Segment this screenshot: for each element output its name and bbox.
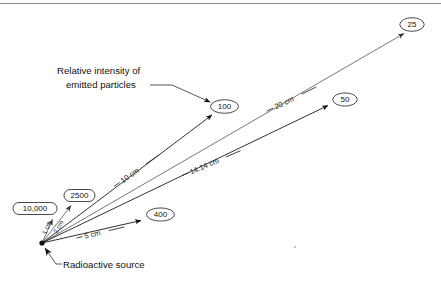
intensity-caption-leader [150,85,210,102]
radioactive-source-dot [39,240,44,245]
intensity-badge-100: 100 [211,100,239,114]
distance-label-1cm: 1 cm [40,220,52,235]
distance-label-5cm: 5 cm [83,228,101,240]
intensity-caption-line1: Relative intensity of [57,65,141,76]
distance-label-10cm-group: 10 cm [111,151,161,190]
source-caption-leader [45,248,62,264]
diagram-canvas: 1 cm 2 cm 5 cm 10 cm 14.14 cm 20 cm [0,0,441,285]
intensity-badge-10000: 10,000 [13,203,57,215]
intensity-caption-line2: emitted particles [66,79,136,90]
distance-label-2cm-group: 2 cm [52,219,65,235]
scan-speck [294,246,296,248]
intensity-badge-2500: 2500 [64,190,95,202]
distance-label-10cm: 10 cm [119,166,141,185]
intensity-badge-10000-label: 10,000 [23,204,48,213]
intensity-badge-50-label: 50 [341,95,350,104]
source-caption-label: Radioactive source [63,259,145,270]
distance-label-2cm: 2 cm [52,219,65,235]
intensity-badge-25: 25 [400,18,424,32]
intensity-badge-25-label: 25 [408,20,417,29]
intensity-badge-100-label: 100 [218,102,232,111]
intensity-badge-2500-label: 2500 [71,191,89,200]
intensity-badge-400: 400 [147,208,175,221]
distance-label-14-14cm: 14.14 cm [188,156,220,176]
distance-label-1cm-group: 1 cm [40,220,52,235]
intensity-badge-50: 50 [333,93,357,106]
distance-label-20cm: 20 cm [273,94,296,111]
intensity-caption: Relative intensity of emitted particles [57,65,210,102]
intensity-badge-400-label: 400 [154,210,168,219]
source-caption: Radioactive source [45,248,145,270]
radioactive-source-diagram: 1 cm 2 cm 5 cm 10 cm 14.14 cm 20 cm [0,0,441,285]
